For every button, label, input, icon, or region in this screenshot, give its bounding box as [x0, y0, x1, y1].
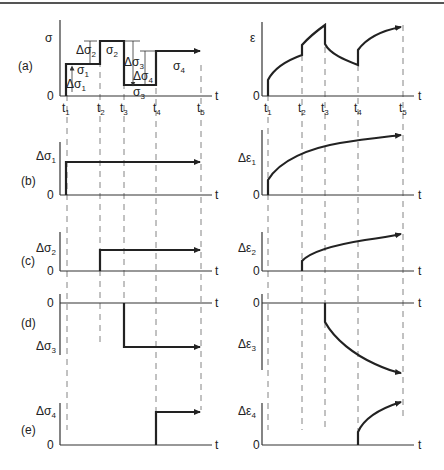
row-c: (c) Δσ2 0 t Δε2 0 t — [21, 232, 422, 278]
row-b: (b) Δσ1 0 t Δε1 0 t — [21, 130, 422, 202]
t-axis-label: t — [215, 296, 219, 310]
right-time-guides — [268, 25, 403, 430]
delta-epsilon1-chart: Δε1 0 t — [238, 130, 422, 202]
delta-epsilon3-axis-label: Δε3 — [238, 337, 256, 353]
zero-label: 0 — [47, 89, 54, 103]
sigma1-label: σ1 — [77, 63, 89, 79]
row-label-e: (e) — [21, 423, 36, 437]
zero-label: 0 — [253, 438, 260, 452]
delta-sigma3-axis-label: Δσ3 — [36, 339, 56, 355]
t1-label: t1 — [264, 101, 272, 117]
zero-label: 0 — [47, 438, 54, 452]
t4-label: t4 — [153, 101, 161, 117]
delta-sigma4-chart: Δσ4 0 t — [36, 403, 219, 452]
delta-sigma1-chart: Δσ1 0 t — [36, 142, 219, 202]
t-axis-label: t — [418, 89, 422, 103]
superposition-diagram: (a) σ 0 t Δσ1 σ1 Δσ2 σ2 Δσ3 Δσ4 σ3 σ4 — [0, 0, 444, 470]
zero-label: 0 — [253, 188, 260, 202]
delta-sigma2-label: Δσ2 — [76, 43, 96, 59]
delta-epsilon3-chart: 0 t Δε3 — [238, 294, 422, 373]
t-axis-label: t — [215, 438, 219, 452]
delta-sigma4-label: Δσ4 — [133, 69, 153, 85]
delta-sigma2-chart: Δσ2 0 t — [36, 232, 219, 278]
t2-label: t2 — [97, 101, 105, 117]
t-axis-label: t — [418, 188, 422, 202]
t-axis-label: t — [418, 264, 422, 278]
zero-label: 0 — [253, 89, 260, 103]
delta-epsilon2-chart: Δε2 0 t — [238, 232, 422, 278]
left-time-guides — [67, 50, 201, 430]
delta-sigma4-axis-label: Δσ4 — [36, 404, 56, 420]
sigma3-label: σ3 — [133, 85, 145, 101]
zero-label: 0 — [47, 188, 54, 202]
strain-response-chart: ε 0 t t1 t2 t3 t4 t5 — [250, 22, 422, 117]
sigma-axis-label: σ — [45, 31, 53, 45]
t-axis-label: t — [418, 438, 422, 452]
zero-label: 0 — [47, 264, 54, 278]
zero-label: 0 — [253, 296, 260, 310]
row-label-d: (d) — [21, 316, 36, 330]
row-label-c: (c) — [21, 254, 35, 268]
delta-epsilon4-chart: Δε4 0 t — [238, 402, 422, 452]
t-axis-label: t — [418, 296, 422, 310]
sigma2-label: σ2 — [106, 43, 118, 59]
delta-epsilon1-axis-label: Δε1 — [238, 151, 256, 167]
t3-label: t3 — [120, 101, 128, 117]
row-label-b: (b) — [21, 174, 36, 188]
t-axis-label: t — [215, 188, 219, 202]
delta-epsilon2-axis-label: Δε2 — [238, 241, 256, 257]
t-axis-label: t — [215, 89, 219, 103]
stress-history-chart: σ 0 t Δσ1 σ1 Δσ2 σ2 Δσ3 Δσ4 σ3 σ4 t1 t2 … — [45, 20, 219, 117]
delta-sigma1-label: Δσ1 — [66, 77, 86, 93]
t-axis-label: t — [215, 264, 219, 278]
row-d: (d) 0 t Δσ3 0 t Δε3 — [21, 294, 422, 373]
t1-label: t1 — [62, 101, 70, 117]
delta-sigma1-axis-label: Δσ1 — [36, 149, 56, 165]
delta-sigma2-axis-label: Δσ2 — [36, 241, 56, 257]
row-a: (a) σ 0 t Δσ1 σ1 Δσ2 σ2 Δσ3 Δσ4 σ3 σ4 — [18, 20, 422, 117]
row-label-a: (a) — [18, 59, 33, 73]
row-e: (e) Δσ4 0 t Δε4 0 t — [21, 402, 422, 452]
sigma4-label: σ4 — [173, 59, 185, 75]
epsilon-axis-label: ε — [250, 31, 256, 45]
delta-sigma3-chart: 0 t Δσ3 — [36, 294, 219, 355]
zero-label: 0 — [47, 296, 54, 310]
delta-epsilon4-axis-label: Δε4 — [238, 404, 256, 420]
zero-label: 0 — [253, 264, 260, 278]
